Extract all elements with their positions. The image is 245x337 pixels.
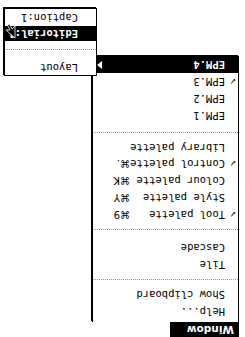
submenu-arrow-icon xyxy=(97,61,102,69)
shortcut-label: ⌘9 xyxy=(114,206,130,223)
menu-title-window[interactable]: Window xyxy=(170,322,239,337)
menu-item-epm-1[interactable]: EPM.1 xyxy=(93,107,238,124)
menu-item-label: Help... xyxy=(181,306,225,318)
menu-item-label: Library palette xyxy=(130,142,225,154)
menu-item-label: EPM.2 xyxy=(193,93,225,105)
menu-separator xyxy=(5,49,96,50)
menu-item-tool-palette[interactable]: ✓ Tool palette ⌘9 xyxy=(93,206,238,223)
shortcut-label: ⌘K xyxy=(113,172,130,189)
menu-item-help[interactable]: Help... xyxy=(93,303,238,320)
submenu-item-layout[interactable]: Layout xyxy=(5,60,96,75)
menu-item-label: Tile xyxy=(200,259,225,271)
menu-item-label: Control palette xyxy=(130,158,225,170)
menu-item-label: Cascade xyxy=(181,242,225,254)
menu-item-epm-2[interactable]: EPM.2 xyxy=(93,90,238,107)
window-menu: Help... Show clipboard Tile Cascade ✓ To… xyxy=(92,56,239,322)
menu-item-tile[interactable]: Tile xyxy=(93,256,238,273)
menu-separator xyxy=(93,229,238,230)
menu-item-library-palette[interactable]: Library palette xyxy=(93,139,238,156)
menu-item-label: Colour palette xyxy=(136,175,225,187)
mouse-pointer-icon xyxy=(4,23,16,39)
menu-item-show-clipboard[interactable]: Show clipboard xyxy=(93,286,238,303)
menu-item-label: EPM.1 xyxy=(193,110,225,122)
menu-item-cascade[interactable]: Cascade xyxy=(93,239,238,256)
shortcut-label: ⌘. xyxy=(117,155,130,172)
screen: Window Help... Show clipboard Tile Casca… xyxy=(0,0,245,337)
checkmark-icon: ✓ xyxy=(226,206,236,223)
menu-item-label: EPM.4 xyxy=(193,59,225,71)
menu-item-label: Layout xyxy=(40,62,78,74)
menu-item-colour-palette[interactable]: Colour palette ⌘K xyxy=(93,172,238,189)
epm-4-submenu: Layout Editorial:1 Caption:1 xyxy=(4,8,97,76)
submenu-item-editorial-1[interactable]: Editorial:1 xyxy=(5,26,96,41)
menu-item-label: Show clipboard xyxy=(136,289,225,301)
menu-item-label: EPM.3 xyxy=(193,76,225,88)
menu-item-style-palette[interactable]: Style palette ⌘Y xyxy=(93,189,238,206)
menu-item-epm-3[interactable]: ✓ EPM.3 xyxy=(93,73,238,90)
menu-separator xyxy=(93,279,238,280)
checkmark-icon: ✓ xyxy=(226,155,236,172)
menu-separator xyxy=(93,132,238,133)
menu-item-label: Caption:1 xyxy=(21,12,78,24)
submenu-item-caption-1[interactable]: Caption:1 xyxy=(5,10,96,25)
menu-item-control-palette[interactable]: ✓ Control palette ⌘. xyxy=(93,155,238,172)
menu-item-label: Editorial:1 xyxy=(8,28,78,40)
menu-item-epm-4[interactable]: EPM.4 xyxy=(93,56,238,73)
checkmark-icon: ✓ xyxy=(226,73,236,90)
menu-item-label: Tool palette xyxy=(149,209,225,221)
shortcut-label: ⌘Y xyxy=(114,189,130,206)
menu-item-label: Style palette xyxy=(143,192,225,204)
